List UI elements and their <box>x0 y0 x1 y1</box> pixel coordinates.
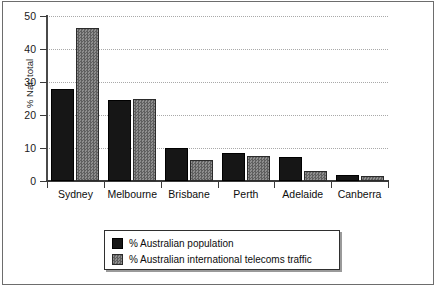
bar-perth-population <box>222 153 245 181</box>
chart-figure: 01020304050 % Nat. total SydneyMelbourne… <box>0 0 437 288</box>
y-tick-mark <box>40 16 47 17</box>
x-axis-label-canberra: Canberra <box>310 188 410 200</box>
bar-melbourne-telecoms <box>133 99 156 182</box>
x-tick-mark <box>47 182 48 188</box>
y-axis-label: % Nat. total <box>24 39 35 129</box>
bar-sydney-telecoms <box>76 28 99 181</box>
bar-melbourne-population <box>108 100 131 181</box>
bar-adelaide-telecoms <box>304 171 327 181</box>
legend-label-population: % Australian population <box>129 238 234 249</box>
legend-swatch-population <box>112 238 123 249</box>
bar-perth-telecoms <box>247 156 270 181</box>
bar-series-layer <box>47 16 388 181</box>
bar-canberra-population <box>336 175 359 181</box>
x-tick-mark <box>388 182 389 188</box>
legend-item-telecoms: % Australian international telecoms traf… <box>112 252 312 266</box>
y-tick-mark <box>40 82 47 83</box>
bar-brisbane-population <box>165 148 188 181</box>
y-tick-label: 50 <box>0 11 36 22</box>
bar-sydney-population <box>51 89 74 181</box>
bar-brisbane-telecoms <box>190 160 213 181</box>
y-tick-mark <box>40 148 47 149</box>
y-tick-mark <box>40 49 47 50</box>
legend-swatch-telecoms <box>112 254 123 265</box>
chart-legend: % Australian population % Australian int… <box>104 230 340 270</box>
y-tick-mark <box>40 115 47 116</box>
y-tick-label: 10 <box>0 143 36 154</box>
bar-adelaide-population <box>279 157 302 181</box>
legend-item-population: % Australian population <box>112 236 234 250</box>
legend-label-telecoms: % Australian international telecoms traf… <box>129 254 312 265</box>
y-tick-label: 0 <box>0 176 36 187</box>
bar-canberra-telecoms <box>361 176 384 181</box>
y-tick-mark <box>40 181 47 182</box>
